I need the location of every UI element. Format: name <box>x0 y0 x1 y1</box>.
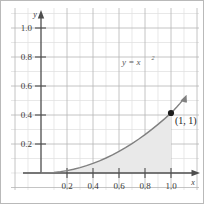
curve-equation-exponent: 2 <box>152 55 155 61</box>
chart-plot-area: 0.2 0.4 0.6 0.8 1.0 0.2 0.4 0.6 0.8 1.0 … <box>1 1 204 204</box>
x-tick-label: 0.6 <box>113 181 125 191</box>
x-axis-label: x <box>190 178 195 187</box>
y-tick-label: 0.4 <box>21 110 33 120</box>
figure-container: 0.2 0.4 0.6 0.8 1.0 0.2 0.4 0.6 0.8 1.0 … <box>0 0 204 204</box>
y-tick-label: 0.6 <box>21 81 33 91</box>
x-tick-label: 0.2 <box>61 181 72 191</box>
y-axis-label: y <box>32 10 37 19</box>
marked-point-dot <box>168 110 174 116</box>
x-axis-tick-labels: 0.2 0.4 0.6 0.8 1.0 <box>61 181 177 191</box>
marked-point-label: (1, 1) <box>175 115 197 127</box>
y-tick-label: 0.8 <box>21 52 33 62</box>
x-tick-label: 0.4 <box>87 181 99 191</box>
y-axis <box>38 10 44 173</box>
y-axis-tick-labels: 0.2 0.4 0.6 0.8 1.0 <box>21 23 33 149</box>
y-tick-label: 1.0 <box>21 23 33 33</box>
x-tick-label: 1.0 <box>165 181 177 191</box>
y-tick-label: 0.2 <box>21 139 32 149</box>
x-tick-label: 0.8 <box>139 181 151 191</box>
curve-equation-base: y = x <box>121 57 141 67</box>
